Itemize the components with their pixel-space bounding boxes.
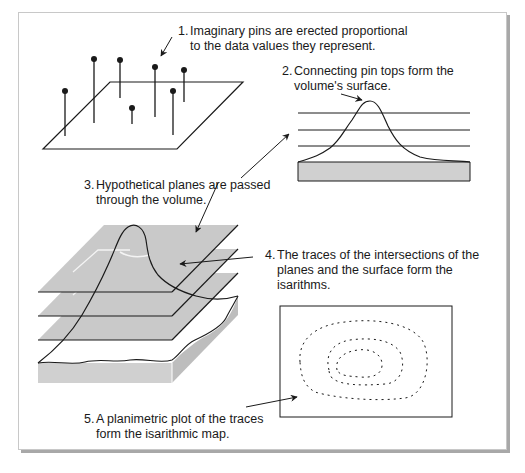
- arrow-step3-to-section: [241, 134, 289, 178]
- map-frame: [280, 306, 452, 417]
- step-4-line2: planes and the surface form the: [265, 263, 479, 278]
- stacked-planes-figure: [38, 183, 253, 383]
- step-1-line2: to the data values they represent.: [178, 39, 407, 54]
- step-2-line1: Connecting pin tops form the: [294, 64, 454, 78]
- step-1-label: 1.Imaginary pins are erected proportiona…: [178, 24, 407, 54]
- cross-section-figure: [241, 94, 470, 181]
- step-4-number: 4.: [265, 248, 277, 263]
- isarithmic-map-figure: [246, 306, 452, 417]
- step-3-line1: Hypothetical planes are passed: [96, 178, 270, 192]
- step-1-number: 1.: [178, 24, 190, 39]
- step-3-number: 3.: [84, 178, 96, 193]
- step-3-label: 3.Hypothetical planes are passed through…: [84, 178, 270, 208]
- block-front: [38, 363, 172, 383]
- cross-section-base: [298, 162, 470, 181]
- step-2-label: 2.Connecting pin tops form the volume's …: [282, 64, 454, 94]
- arrow-step2: [341, 94, 362, 100]
- step-3-line2: through the volume.: [84, 193, 270, 208]
- step-4-line1: The traces of the intersections of the: [277, 248, 479, 262]
- arrow-step1: [161, 37, 172, 56]
- pin-heads: [62, 56, 187, 111]
- base-plane: [43, 82, 243, 149]
- step-5-line2: form the isarithmic map.: [84, 427, 263, 442]
- step-2-number: 2.: [282, 64, 294, 79]
- step-4-label: 4.The traces of the intersections of the…: [265, 248, 479, 293]
- step-5-line1: A planimetric plot of the traces: [96, 412, 263, 426]
- pins: [65, 59, 184, 136]
- step-2-line2: volume's surface.: [282, 79, 454, 94]
- step-1-line1: Imaginary pins are erected proportional: [190, 24, 407, 38]
- step-5-number: 5.: [84, 412, 96, 427]
- step-4-line3: isarithms.: [265, 278, 479, 293]
- surface-profile: [298, 101, 470, 162]
- step-5-label: 5.A planimetric plot of the traces form …: [84, 412, 263, 442]
